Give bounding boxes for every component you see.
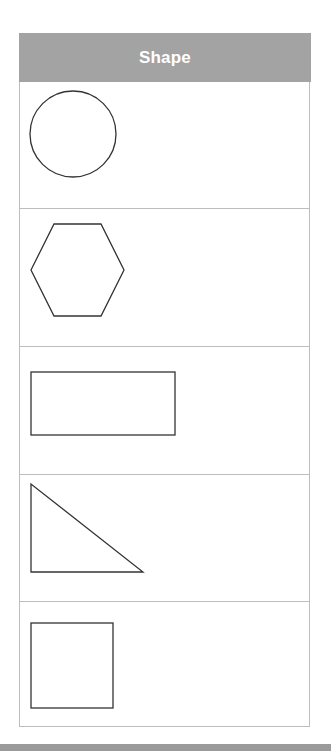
table-row-hexagon [20, 209, 310, 347]
table-header: Shape [19, 33, 311, 82]
table-row-square [20, 602, 310, 727]
table-row-triangle [20, 475, 310, 602]
bottom-bar [0, 744, 331, 751]
table-row-rectangle [20, 347, 310, 475]
header-label: Shape [139, 48, 191, 68]
table-row-circle [20, 82, 310, 209]
